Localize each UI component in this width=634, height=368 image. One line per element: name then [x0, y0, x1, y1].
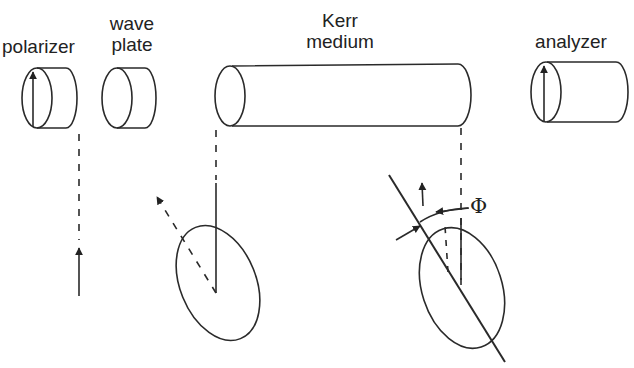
phi-arrow-left-icon [396, 226, 420, 240]
polarizer-cylinder [22, 68, 77, 128]
dashed-axis-arrow-icon [157, 197, 216, 293]
kerr-medium-cylinder [215, 64, 471, 126]
phi-arrow-right-icon [436, 208, 469, 212]
entrance-polarization-ellipse [157, 130, 276, 353]
diagram-canvas [0, 0, 634, 368]
exit-polarization-ellipse [389, 128, 519, 362]
rotated-axis-arrow-icon [422, 183, 423, 206]
wave-plate-cylinder [102, 68, 156, 128]
analyzer-cylinder [531, 62, 628, 122]
